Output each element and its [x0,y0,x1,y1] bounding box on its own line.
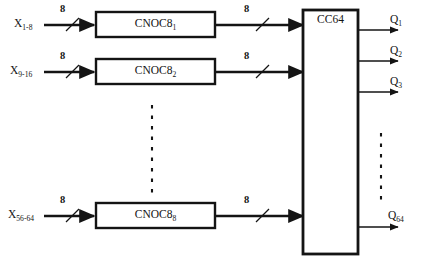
block-output-arrow-row-2 [215,65,303,78]
block-label-cnoc8-1: CNOC81 [96,18,215,30]
output-label-q3: Q3 [390,76,402,88]
input-arrow-row-2 [44,65,94,78]
input-label-x9-16: X9-16 [10,65,32,77]
bus-width-label-out-row-1: 8 [244,4,249,15]
output-label-q1: Q1 [390,14,402,26]
bus-width-label-row-3: 8 [60,195,65,206]
block-cc64 [303,10,358,254]
diagram-canvas [0,0,430,268]
block-label-cnoc8-2: CNOC82 [96,65,215,77]
output-label-q2: Q2 [390,45,402,57]
input-arrow-row-1 [44,18,94,31]
block-label-cc64: CC64 [303,14,358,26]
block-output-arrow-row-3 [215,209,303,222]
bus-width-label-out-row-2: 8 [244,51,249,62]
bus-width-label-row-1: 8 [60,4,65,15]
block-diagram: X1-8 8 CNOC81 8 X9-16 8 CNOC82 8 X56-64 … [0,0,430,268]
block-label-cnoc8-8: CNOC88 [96,209,215,221]
input-arrow-row-3 [44,209,94,222]
block-output-arrow-row-1 [215,18,303,31]
output-label-q64: Q64 [388,210,404,222]
input-label-x1-8: X1-8 [14,18,32,30]
input-label-x56-64: X56-64 [8,209,34,221]
bus-width-label-row-2: 8 [60,51,65,62]
bus-width-label-out-row-3: 8 [244,195,249,206]
